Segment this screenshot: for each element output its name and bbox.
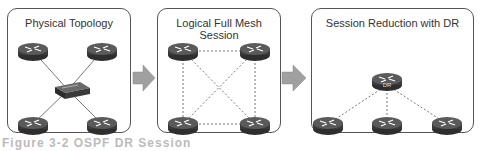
dr-label: DR [383,82,392,88]
router-icon [372,117,402,135]
router-icon [313,117,343,135]
router-icon [168,117,198,135]
router-icon [87,43,117,61]
mesh-links [183,51,255,124]
router-icon [240,117,270,135]
arrow-right-icon [133,65,155,91]
router-icon [168,43,198,61]
router-icon [87,117,117,135]
diagram-canvas: DR [0,0,481,151]
figure-caption: Figure 3-2 OSPF DR Session [2,136,191,150]
router-icon [18,43,48,61]
router-icon [240,43,270,61]
router-icon [432,117,462,135]
switch-icon [55,82,90,99]
router-icon [18,117,48,135]
arrow-right-icon [282,65,306,91]
